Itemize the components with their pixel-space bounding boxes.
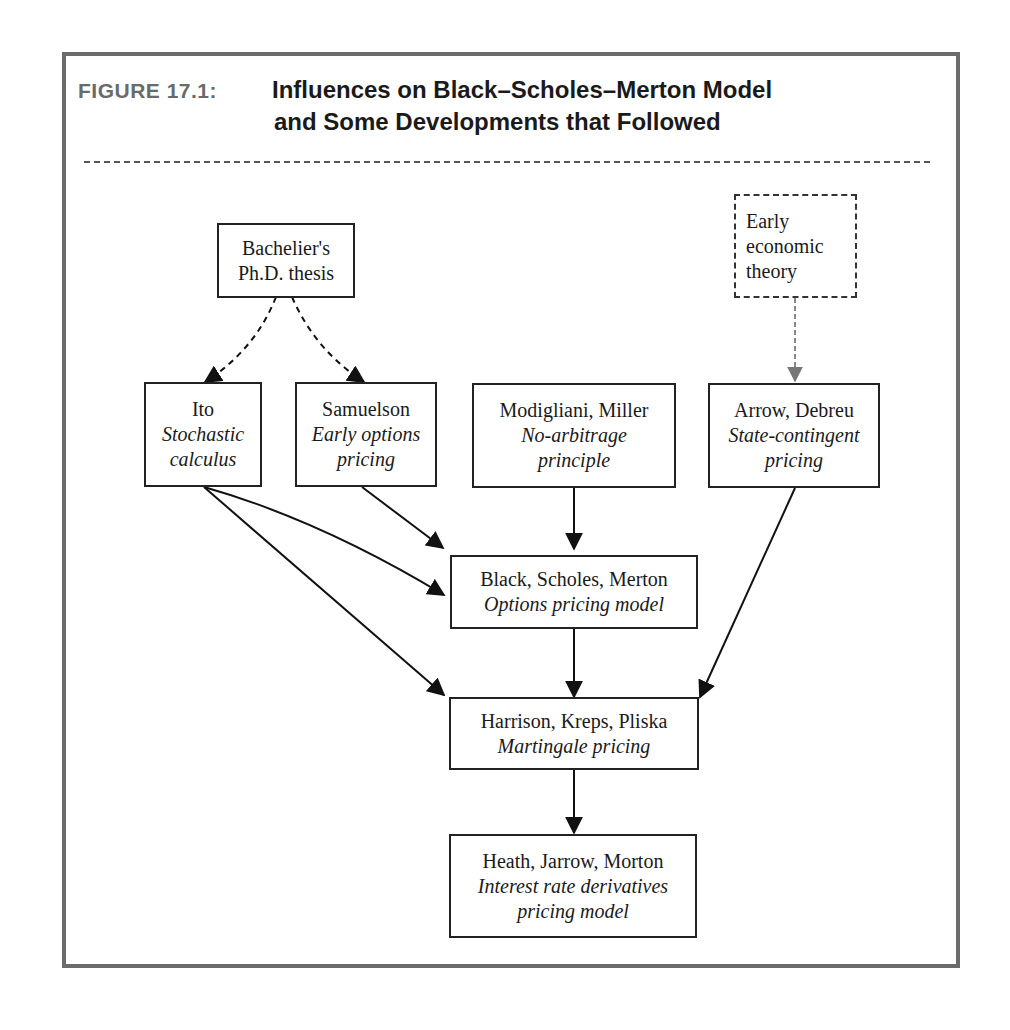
node-line: Early xyxy=(746,209,855,234)
node-samuelson: Samuelson Early options pricing xyxy=(295,382,437,487)
node-harrison-kreps-pliska: Harrison, Kreps, Pliska Martingale prici… xyxy=(449,697,699,770)
node-ito: Ito Stochastic calculus xyxy=(144,382,262,487)
node-name: Samuelson xyxy=(297,397,435,422)
edge-ito-bsm xyxy=(204,487,444,595)
node-sub: principle xyxy=(474,448,674,473)
node-name: Harrison, Kreps, Pliska xyxy=(451,709,697,734)
node-bachelier: Bachelier's Ph.D. thesis xyxy=(217,223,355,298)
node-arrow-debreu: Arrow, Debreu State-contingent pricing xyxy=(708,383,880,488)
node-sub: pricing xyxy=(297,447,435,472)
edge-bachelier-samuelson xyxy=(292,297,364,382)
node-sub: Stochastic xyxy=(146,422,260,447)
node-sub: No-arbitrage xyxy=(474,423,674,448)
node-name: Ito xyxy=(146,397,260,422)
node-name: Modigliani, Miller xyxy=(474,398,674,423)
node-name: Bachelier's xyxy=(219,236,353,261)
edge-samuelson-bsm xyxy=(362,487,443,548)
node-heath-jarrow-morton: Heath, Jarrow, Morton Interest rate deri… xyxy=(449,834,697,938)
node-sub: State-contingent xyxy=(710,423,878,448)
node-sub: Martingale pricing xyxy=(451,734,697,759)
node-modigliani-miller: Modigliani, Miller No-arbitrage principl… xyxy=(472,383,676,488)
edge-ito-hkp xyxy=(204,487,444,695)
node-line: economic xyxy=(746,234,855,259)
node-sub: Early options xyxy=(297,422,435,447)
edge-arrow-hkp xyxy=(700,488,795,697)
node-sub: Ph.D. thesis xyxy=(219,261,353,286)
node-sub: pricing xyxy=(710,448,878,473)
node-sub: calculus xyxy=(146,447,260,472)
edge-bachelier-ito xyxy=(205,297,276,382)
node-line: theory xyxy=(746,259,855,284)
node-sub: Options pricing model xyxy=(452,592,696,617)
node-name: Black, Scholes, Merton xyxy=(452,567,696,592)
node-name: Arrow, Debreu xyxy=(710,398,878,423)
node-early-economic-theory: Early economic theory xyxy=(734,194,857,298)
node-name: Heath, Jarrow, Morton xyxy=(451,849,695,874)
node-sub: pricing model xyxy=(451,899,695,924)
node-black-scholes-merton: Black, Scholes, Merton Options pricing m… xyxy=(450,555,698,629)
node-sub: Interest rate derivatives xyxy=(451,874,695,899)
